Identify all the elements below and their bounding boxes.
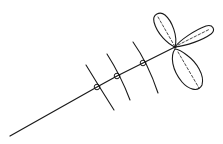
leaflet-right [175, 26, 213, 47]
stem-with-leaves-illustration [0, 0, 223, 144]
stem [10, 47, 175, 136]
node-arc-2 [107, 54, 130, 100]
node-arc-3 [133, 42, 158, 93]
plant-drawing [0, 0, 223, 144]
leaflet-lower-midrib [178, 52, 199, 88]
leaf-junction [173, 45, 176, 48]
leaflet-lower [172, 49, 202, 89]
